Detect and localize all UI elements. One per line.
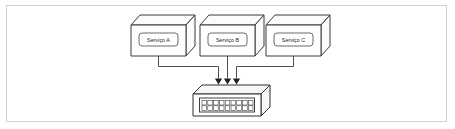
switch-port bbox=[202, 100, 207, 105]
service-c-top-face bbox=[266, 15, 330, 25]
service-b-label: Serviço B bbox=[216, 37, 239, 43]
node-service-b[interactable]: Serviço B bbox=[200, 15, 264, 56]
connector-group bbox=[159, 56, 294, 85]
switch-port bbox=[248, 100, 253, 105]
switch-port bbox=[214, 100, 219, 105]
arrowhead-service-b bbox=[224, 78, 231, 84]
connector-service-a-to-switch bbox=[159, 56, 219, 79]
service-a-label: Serviço A bbox=[147, 37, 170, 43]
switch-port bbox=[231, 106, 236, 111]
switch-port bbox=[225, 100, 230, 105]
switch-port bbox=[214, 106, 219, 111]
switch-port bbox=[208, 100, 213, 105]
switch-port bbox=[219, 106, 224, 111]
architecture-diagram: Servicos conectados a um switch de rede … bbox=[7, 6, 446, 121]
switch-port bbox=[237, 100, 242, 105]
node-service-a[interactable]: Serviço A bbox=[131, 15, 195, 56]
connector-service-c-to-switch bbox=[237, 56, 294, 79]
arrowhead-service-a bbox=[215, 78, 222, 84]
switch-port bbox=[248, 106, 253, 111]
switch-port bbox=[208, 106, 213, 111]
switch-port bbox=[243, 106, 248, 111]
service-a-top-face bbox=[131, 15, 195, 25]
node-service-c[interactable]: Serviço C bbox=[266, 15, 330, 56]
service-b-top-face bbox=[200, 15, 264, 25]
switch-port bbox=[225, 106, 230, 111]
switch-port bbox=[202, 106, 207, 111]
arrowhead-service-c bbox=[233, 78, 240, 84]
service-c-label: Serviço C bbox=[282, 37, 305, 43]
switch-port bbox=[231, 100, 236, 105]
switch-port bbox=[219, 100, 224, 105]
switch-top-face bbox=[193, 85, 270, 94]
switch-port bbox=[237, 106, 242, 111]
switch-port bbox=[243, 100, 248, 105]
network-switch[interactable] bbox=[193, 85, 270, 116]
diagram-frame: Servicos conectados a um switch de rede … bbox=[6, 5, 447, 122]
